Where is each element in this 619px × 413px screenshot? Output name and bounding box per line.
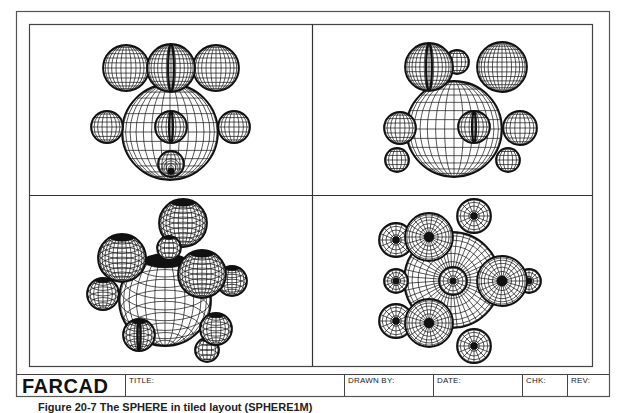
wireframe-sphere xyxy=(405,299,453,347)
wireframe-sphere xyxy=(503,111,537,145)
wireframe-sphere xyxy=(193,45,239,91)
wireframe-sphere xyxy=(147,44,195,92)
date-field-label: DATE: xyxy=(437,376,461,385)
title-field-label: TITLE: xyxy=(129,376,154,385)
wireframe-sphere xyxy=(477,256,527,306)
wireframe-sphere xyxy=(405,43,453,91)
wireframe-sphere xyxy=(158,151,184,177)
wireframe-sphere xyxy=(496,148,520,172)
rev-field-label: REV: xyxy=(571,376,590,385)
wireframe-sphere xyxy=(218,111,250,143)
viewport-side-view[interactable] xyxy=(384,42,537,177)
wireframe-sphere xyxy=(98,231,146,285)
farcad-logo: FARCAD xyxy=(22,375,108,398)
viewport-front-view[interactable] xyxy=(91,44,250,180)
viewport-top-view[interactable] xyxy=(379,199,541,363)
wireframe-sphere xyxy=(405,213,453,261)
wireframe-sphere xyxy=(178,247,226,301)
wireframe-sphere xyxy=(477,42,527,92)
wireframe-sphere xyxy=(457,199,491,233)
drawn-by-field-label: DRAWN BY: xyxy=(348,376,394,385)
figure-caption: Figure 20-7 The SPHERE in tiled layout (… xyxy=(38,401,312,413)
wireframe-sphere xyxy=(103,45,149,91)
wireframe-sphere xyxy=(385,148,409,172)
wireframe-sphere xyxy=(457,329,491,363)
wireframe-sphere xyxy=(439,267,467,295)
wireframe-sphere xyxy=(155,111,187,143)
wireframe-sphere xyxy=(458,111,490,143)
viewport-isometric-view[interactable] xyxy=(87,196,247,364)
wireframe-sphere xyxy=(384,269,408,293)
chk-field-label: CHK: xyxy=(526,376,546,385)
wireframe-sphere xyxy=(91,111,123,143)
wireframe-sphere xyxy=(157,234,181,261)
wireframe-sphere xyxy=(384,112,416,144)
